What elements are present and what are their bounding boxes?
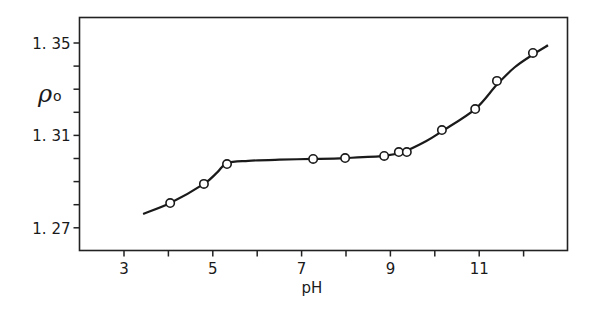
chart: 1. 271. 311. 35 357911 pH ρ o <box>0 0 594 310</box>
data-point <box>403 148 411 156</box>
y-axis-label-subscript: o <box>53 88 62 104</box>
data-point <box>438 126 446 134</box>
data-points <box>166 49 537 208</box>
data-point <box>309 155 317 163</box>
data-point <box>166 199 174 207</box>
data-point <box>529 49 537 57</box>
x-tick-label: 3 <box>119 260 129 278</box>
data-point <box>341 154 349 162</box>
data-point <box>380 152 388 160</box>
y-tick-label: 1. 27 <box>32 220 70 238</box>
x-tick-label: 7 <box>297 260 307 278</box>
y-tick-label: 1. 31 <box>32 127 70 145</box>
plot-frame <box>80 18 568 251</box>
data-point <box>395 148 403 156</box>
y-axis-ticks: 1. 271. 311. 35 <box>32 35 79 238</box>
data-point <box>471 105 479 113</box>
x-tick-label: 9 <box>386 260 396 278</box>
y-axis-label: ρ o <box>37 80 62 108</box>
x-tick-label: 5 <box>208 260 218 278</box>
y-tick-label: 1. 35 <box>32 35 70 53</box>
x-axis-ticks: 357911 <box>119 251 523 278</box>
x-tick-label: 11 <box>470 260 489 278</box>
data-point <box>200 180 208 188</box>
y-axis-label-symbol: ρ <box>37 80 52 108</box>
data-point <box>493 77 501 85</box>
data-point <box>223 160 231 168</box>
x-axis-label: pH <box>302 279 323 297</box>
